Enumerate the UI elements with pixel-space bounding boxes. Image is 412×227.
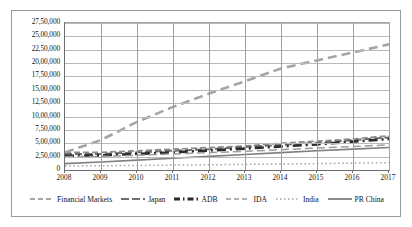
gridline-horizontal (65, 23, 389, 24)
x-tick-label: 2011 (165, 173, 180, 182)
series-line (65, 44, 389, 152)
gridline-vertical (173, 23, 174, 170)
gridline-vertical (101, 23, 102, 170)
x-tick-label: 2015 (309, 173, 324, 182)
y-tick-label: 10,00,000 (32, 112, 60, 120)
x-tick-label: 2009 (93, 173, 108, 182)
legend-item[interactable]: India (276, 195, 319, 204)
x-tick-label: 2017 (381, 173, 396, 182)
legend-label: Japan (148, 195, 165, 204)
x-tick-mark (172, 170, 173, 173)
x-tick-mark (352, 170, 353, 173)
legend-label: PR China (355, 195, 384, 204)
chart-legend: Financial MarketsJapanADBIDAIndiaPR Chin… (12, 189, 402, 209)
x-tick-label: 2008 (57, 173, 72, 182)
legend-label: IDA (253, 195, 267, 204)
legend-swatch (328, 196, 352, 202)
gridline-horizontal (65, 130, 389, 131)
x-tick-mark (244, 170, 245, 173)
chart-figure: 02,50,0005,00,0007,50,00010,00,00012,50,… (11, 10, 401, 217)
legend-label: Financial Markets (57, 195, 112, 204)
legend-swatch (276, 196, 300, 202)
legend-swatch (174, 196, 198, 202)
x-tick-label: 2016 (345, 173, 360, 182)
gridline-horizontal (65, 63, 389, 64)
y-tick-label: 0 (56, 165, 60, 173)
y-tick-label: 27,50,000 (32, 18, 60, 26)
plot-frame (64, 22, 390, 171)
gridline-vertical (353, 23, 354, 170)
y-tick-label: 25,00,000 (32, 31, 60, 39)
y-tick-label: 20,00,000 (32, 58, 60, 66)
plot-area: 02,50,0005,00,0007,50,00010,00,00012,50,… (12, 11, 402, 181)
x-tick-mark (388, 170, 389, 173)
legend-item[interactable]: ADB (174, 195, 217, 204)
legend-label: India (303, 195, 319, 204)
series-line (65, 163, 389, 166)
legend-swatch (226, 196, 250, 202)
gridline-vertical (137, 23, 138, 170)
gridline-vertical (209, 23, 210, 170)
gridline-vertical (389, 23, 390, 170)
legend-swatch (30, 196, 54, 202)
legend-item[interactable]: IDA (226, 195, 267, 204)
x-tick-mark (136, 170, 137, 173)
x-tick-label: 2013 (237, 173, 252, 182)
x-tick-mark (64, 170, 65, 173)
y-tick-label: 17,50,000 (32, 71, 60, 79)
legend-swatch (121, 196, 145, 202)
legend-item[interactable]: Financial Markets (30, 195, 112, 204)
y-axis: 02,50,0005,00,0007,50,00010,00,00012,50,… (12, 11, 63, 181)
series-layer (65, 23, 389, 170)
gridline-horizontal (65, 157, 389, 158)
y-tick-label: 7,50,000 (35, 125, 60, 133)
y-tick-label: 15,00,000 (32, 85, 60, 93)
x-tick-mark (100, 170, 101, 173)
x-axis: 2008200920102011201220132014201520162017 (64, 173, 390, 185)
gridline-horizontal (65, 90, 389, 91)
gridline-horizontal (65, 117, 389, 118)
x-tick-label: 2014 (273, 173, 288, 182)
y-tick-label: 2,50,000 (35, 152, 60, 160)
gridline-vertical (245, 23, 246, 170)
x-tick-label: 2010 (129, 173, 144, 182)
gridline-horizontal (65, 143, 389, 144)
y-tick-label: 22,50,000 (32, 45, 60, 53)
legend-item[interactable]: Japan (121, 195, 165, 204)
gridline-horizontal (65, 50, 389, 51)
gridline-horizontal (65, 103, 389, 104)
y-tick-label: 5,00,000 (35, 138, 60, 146)
gridline-vertical (317, 23, 318, 170)
x-tick-mark (208, 170, 209, 173)
x-tick-label: 2012 (201, 173, 216, 182)
gridline-vertical (281, 23, 282, 170)
legend-label: ADB (201, 195, 217, 204)
x-tick-mark (316, 170, 317, 173)
y-tick-label: 12,50,000 (32, 98, 60, 106)
gridline-horizontal (65, 76, 389, 77)
x-tick-mark (280, 170, 281, 173)
legend-item[interactable]: PR China (328, 195, 384, 204)
gridline-horizontal (65, 36, 389, 37)
